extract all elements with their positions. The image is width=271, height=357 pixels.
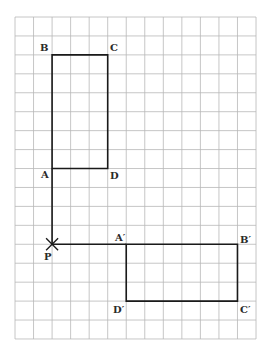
vertex-labels: B C A D P A′ B′ D′ C′: [40, 42, 251, 315]
label-d: D: [110, 170, 119, 181]
grid-diagram: B C A D P A′ B′ D′ C′: [0, 0, 271, 357]
label-d-prime: D′: [113, 304, 125, 315]
square-grid: [15, 17, 256, 339]
label-a-prime: A′: [114, 232, 126, 243]
label-b: B: [40, 42, 48, 53]
label-a: A: [40, 169, 49, 180]
label-c: C: [110, 42, 118, 53]
shapes: [46, 55, 237, 301]
label-c-prime: C′: [240, 304, 251, 315]
label-b-prime: B′: [240, 234, 251, 245]
label-p: P: [44, 251, 52, 262]
